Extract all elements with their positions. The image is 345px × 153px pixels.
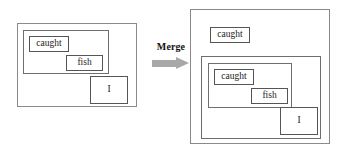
right-i-label: I [281,116,317,126]
arrow-head [176,57,189,69]
right-outer-box: caught caught fish I [190,9,330,144]
right-i-box: I [280,107,318,135]
right-caught-top-label: caught [211,30,249,40]
right-fish-box: fish [251,88,288,104]
right-container-box: caught fish I [201,56,321,139]
left-caught-label: caught [30,39,68,49]
right-inner-box: caught fish [208,63,292,108]
right-fish-label: fish [252,91,287,101]
merge-label: Merge [150,41,192,53]
left-outer-box: caught fish I [17,23,137,107]
merge-operator: Merge [150,41,192,71]
merge-diagram: caught fish I Merge caught caught [0,0,345,153]
right-arrow-icon [152,57,190,70]
left-caught-box: caught [29,36,69,52]
left-i-label: I [91,85,127,95]
left-fish-box: fish [66,55,103,71]
left-i-box: I [90,76,128,104]
left-container-box: caught fish [23,30,109,74]
right-caught-inner-box: caught [214,69,254,85]
left-fish-label: fish [67,58,102,68]
right-caught-top-box: caught [210,27,250,43]
arrow-shaft [152,60,177,67]
right-caught-inner-label: caught [215,72,253,82]
